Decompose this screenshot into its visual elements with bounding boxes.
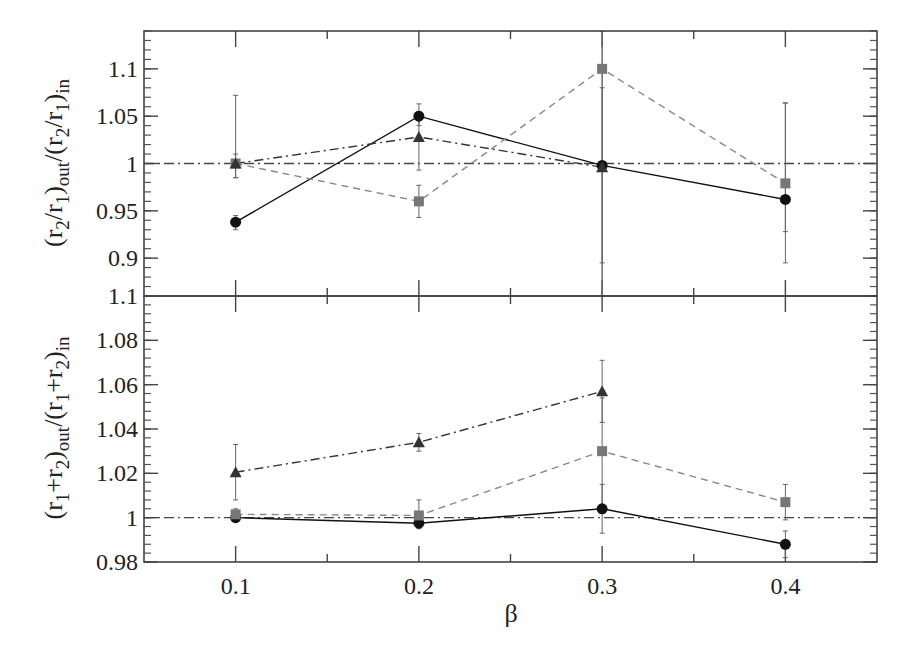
circle-marker [780, 539, 791, 550]
y-tick-label: 1 [126, 151, 138, 177]
square-marker [414, 510, 424, 520]
y-tick-label: 1.05 [96, 103, 138, 129]
square-marker [597, 446, 607, 456]
circle-marker [230, 217, 241, 228]
square-marker [780, 497, 790, 507]
top-y-axis-label: (r2/r1)out/(r2/r1)in [39, 78, 73, 247]
y-tick-label: 1.08 [96, 327, 138, 353]
bottom-y-axis-label: (r1+r2)out/(r1+r2)in [39, 336, 73, 519]
square-marker [231, 509, 241, 519]
y-tick-label: 1.06 [96, 372, 138, 398]
bottom-panel: 0.9811.021.041.061.081.10.10.20.30.4 [96, 283, 877, 599]
triangle-marker [413, 436, 425, 447]
x-tick-label: 0.2 [404, 573, 434, 599]
x-tick-label: 0.1 [221, 573, 251, 599]
square-marker [597, 64, 607, 74]
top-panel: 0.90.9511.051.1 [96, 31, 877, 296]
y-tick-label: 1 [126, 505, 138, 531]
figure: 0.90.9511.051.1 0.9811.021.041.061.081.1… [0, 0, 912, 653]
y-tick-label: 0.98 [96, 549, 138, 575]
two-panel-line-chart: 0.90.9511.051.1 0.9811.021.041.061.081.1… [0, 0, 912, 653]
x-tick-label: 0.4 [770, 573, 800, 599]
circle-marker [413, 111, 424, 122]
square-marker [414, 196, 424, 206]
circle-marker [780, 194, 791, 205]
y-tick-label: 1.02 [96, 460, 138, 486]
x-axis-label: β [504, 599, 517, 628]
triangle-marker [413, 131, 425, 142]
series-line-triangles [236, 391, 603, 472]
plot-area [230, 360, 791, 557]
square-marker [780, 178, 790, 188]
triangle-marker [596, 385, 608, 396]
y-tick-label: 1.04 [96, 416, 138, 442]
panel-frame [144, 296, 877, 562]
series-line-squares [236, 451, 786, 515]
series-line-squares [236, 69, 786, 202]
series-line-circles [236, 509, 786, 544]
y-tick-label: 1.1 [108, 283, 138, 309]
y-tick-label: 1.1 [108, 56, 138, 82]
y-tick-label: 0.9 [108, 245, 138, 271]
y-tick-label: 0.95 [96, 198, 138, 224]
x-tick-label: 0.3 [587, 573, 617, 599]
circle-marker [597, 503, 608, 514]
